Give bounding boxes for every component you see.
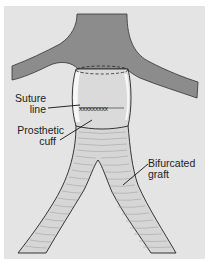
label-suture-line: Suture line bbox=[10, 93, 46, 115]
label-bifurcated-graft-2: graft bbox=[148, 169, 195, 180]
label-prosthetic-cuff-2: cuff bbox=[8, 136, 64, 147]
label-prosthetic-cuff: Prosthetic cuff bbox=[8, 125, 64, 147]
label-suture-line-2: line bbox=[10, 104, 46, 115]
label-bifurcated-graft: Bifurcated graft bbox=[148, 158, 195, 180]
prosthetic-cuff bbox=[72, 69, 131, 129]
suture-marks: xxxxxxxxx bbox=[79, 105, 109, 112]
